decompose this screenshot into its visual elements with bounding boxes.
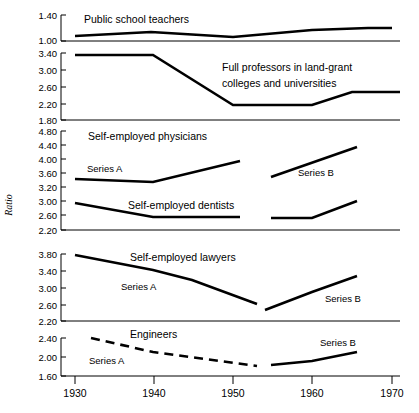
ratio-multi-panel-chart: Ratio 1.40 1.00 Public school teachers 3…: [0, 0, 419, 413]
panel3-ytick-320: 3.20: [39, 182, 58, 193]
lawyers-series-b-label: Series B: [325, 293, 361, 304]
xtick-label-1940: 1940: [142, 387, 166, 399]
xtick-label-1970: 1970: [380, 387, 404, 399]
panel3-ytick-220: 2.20: [39, 225, 58, 236]
panel4-ytick-260: 2.60: [39, 300, 58, 311]
panel4-ytick-340: 3.40: [39, 266, 58, 277]
panel-self-employed-lawyers: 3.80 3.40 3.00 2.60 2.20 Self-employed l…: [39, 249, 401, 327]
panel3-title-physicians: Self-employed physicians: [88, 130, 207, 142]
engineers-series-b-label: Series B: [320, 337, 356, 348]
panel-engineers: 2.40 2.00 1.60 Engineers Series A Series…: [39, 328, 404, 399]
panel1-ytick-100: 1.00: [39, 35, 58, 46]
panel3-ytick-440: 4.40: [39, 140, 58, 151]
panel4-axis: [61, 254, 400, 321]
panel5-ytick-200: 2.00: [39, 352, 58, 363]
xtick-label-1950: 1950: [221, 387, 245, 399]
panel3-ytick-480: 4.80: [39, 126, 58, 137]
panel2-ytick-300: 3.00: [39, 65, 58, 76]
panel4-title: Self-employed lawyers: [130, 251, 236, 263]
panel-public-school-teachers: 1.40 1.00 Public school teachers: [39, 10, 401, 46]
panel2-ytick-180: 1.80: [39, 115, 58, 126]
chart-svg: Ratio 1.40 1.00 Public school teachers 3…: [0, 0, 419, 413]
physicians-series-b-label: Series B: [298, 167, 334, 178]
y-axis-title-text: Ratio: [3, 194, 14, 217]
y-axis-title: Ratio: [3, 194, 14, 217]
xtick-label-1960: 1960: [300, 387, 324, 399]
panel3-title-dentists: Self-employed dentists: [128, 199, 234, 211]
panel2-title-line1: Full professors in land-grant: [222, 61, 352, 73]
x-axis: 1930 1940 1950 1960 1970: [63, 376, 404, 399]
engineers-series-a-label: Series A: [89, 355, 125, 366]
panel3-ytick-360: 3.60: [39, 168, 58, 179]
panel4-ytick-300: 3.00: [39, 283, 58, 294]
series-public-school-teachers: [75, 28, 392, 37]
panel5-title: Engineers: [130, 328, 177, 340]
panel-full-professors: 3.40 3.00 2.60 2.20 1.80 Full professors…: [39, 48, 401, 126]
panel2-ytick-340: 3.40: [39, 48, 58, 59]
panel3-ytick-400: 4.00: [39, 154, 58, 165]
panel5-ytick-240: 2.40: [39, 333, 58, 344]
panel4-ytick-220: 2.20: [39, 316, 58, 327]
panel4-ytick-380: 3.80: [39, 249, 58, 260]
xtick-label-1930: 1930: [63, 387, 87, 399]
physicians-series-a-label: Series A: [87, 163, 123, 174]
panel3-ytick-300: 3.00: [39, 196, 58, 207]
series-dentists-b: [271, 201, 357, 218]
panel2-ytick-260: 2.60: [39, 82, 58, 93]
panel1-title: Public school teachers: [84, 13, 189, 25]
panel2-title-line2: colleges and universities: [222, 77, 336, 89]
panel5-ytick-160: 1.60: [39, 371, 58, 382]
panel1-ytick-140: 1.40: [39, 10, 58, 21]
panel3-ytick-260: 2.60: [39, 210, 58, 221]
panel-self-employed-physicians-dentists: 4.80 4.40 4.00 3.60 3.20 3.00 2.60 2.20 …: [39, 126, 401, 236]
series-engineers-b: [271, 352, 357, 365]
panel2-ytick-220: 2.20: [39, 99, 58, 110]
lawyers-series-a-label: Series A: [121, 281, 157, 292]
